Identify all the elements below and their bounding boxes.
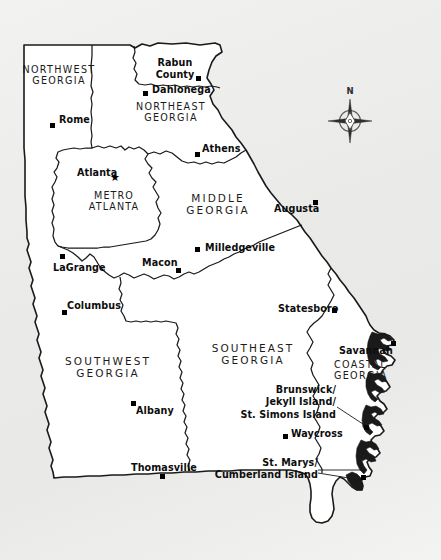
compass-rose-icon (327, 98, 373, 144)
city-marker-st-marys (361, 475, 366, 480)
city-marker-dahlonega (143, 91, 148, 96)
city-marker-lagrange (60, 254, 65, 259)
city-marker-augusta (313, 200, 318, 205)
compass-rose: N (327, 86, 373, 142)
city-marker-atlanta-star: ★ (110, 172, 120, 183)
map-canvas: NORTHWEST GEORGIA NORTHEAST GEORGIA METR… (0, 0, 441, 560)
city-marker-milledgeville (195, 247, 200, 252)
city-marker-thomasville (160, 474, 165, 479)
city-marker-brunswick (364, 425, 369, 430)
georgia-state-map (0, 0, 441, 560)
city-marker-waycross (283, 434, 288, 439)
compass-north-label: N (327, 86, 373, 96)
city-marker-rabun-county (196, 76, 201, 81)
city-marker-athens (195, 152, 200, 157)
city-marker-statesboro (332, 308, 337, 313)
city-marker-albany (131, 401, 136, 406)
city-marker-rome (50, 123, 55, 128)
city-marker-savannah (391, 341, 396, 346)
city-marker-columbus (62, 310, 67, 315)
city-marker-macon (176, 268, 181, 273)
